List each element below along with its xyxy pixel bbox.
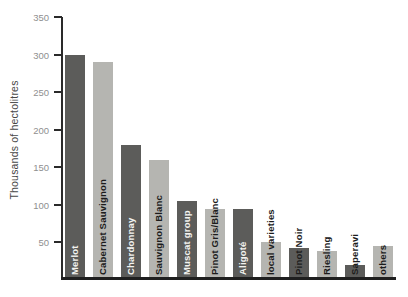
y-tick-label: 250 bbox=[3, 87, 49, 98]
bar-label: Pinot Gris/Blanc bbox=[210, 198, 220, 275]
y-tick-label: 150 bbox=[3, 162, 49, 173]
y-tick-label: 100 bbox=[3, 200, 49, 211]
y-tick-label: 50 bbox=[3, 237, 49, 248]
y-tick-label: 350 bbox=[3, 12, 49, 23]
bar-label: Chardonnay bbox=[126, 218, 136, 275]
bar-label: Sauvignon Blanc bbox=[154, 195, 164, 275]
y-axis-line bbox=[61, 17, 63, 280]
bar-label: Aligoté bbox=[238, 241, 248, 275]
bar-label: others bbox=[378, 245, 388, 275]
y-tick-label: 200 bbox=[3, 125, 49, 136]
bar-label: Cabernet Sauvignon bbox=[98, 179, 108, 275]
bar-label: local varieties bbox=[266, 209, 276, 275]
bar-label: Saperavi bbox=[350, 234, 360, 275]
y-tick-label: 300 bbox=[3, 50, 49, 61]
bar-label: Merlot bbox=[70, 245, 80, 275]
plot-area: 50100150200250300350MerlotCabernet Sauvi… bbox=[61, 17, 400, 280]
y-axis-title: Thousands of hectolitres bbox=[8, 80, 20, 199]
x-axis-line bbox=[61, 277, 396, 280]
bar-chart: Thousands of hectolitres 501001502002503… bbox=[0, 0, 408, 297]
bar-label: Riesling bbox=[322, 236, 332, 275]
bar-label: Pinot Noir bbox=[294, 228, 304, 275]
bar-label: Muscat group bbox=[182, 210, 192, 275]
